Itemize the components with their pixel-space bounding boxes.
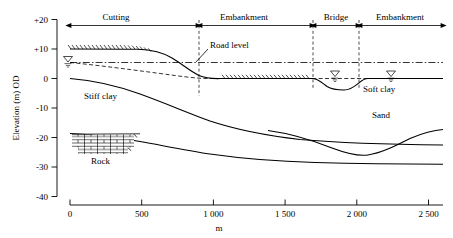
y-axis: +20 +10 0 -10 -20 -30 -40 Elevation (m) …	[11, 15, 57, 202]
cross-section-svg: +20 +10 0 -10 -20 -30 -40 Elevation (m) …	[0, 0, 453, 238]
road-level-leader	[196, 49, 208, 62]
x-tick-label-2500: 2 500	[418, 209, 439, 219]
x-axis-ticks	[70, 200, 429, 206]
y-tick-label-minus30: -30	[36, 162, 48, 172]
x-axis-unit-label: m	[215, 223, 222, 233]
x-tick-label-1000: 1 000	[203, 209, 224, 219]
water-table-embankment	[387, 71, 396, 82]
ground-hatch-cutting	[68, 45, 151, 52]
water-table-cutting	[64, 57, 73, 68]
y-tick-label-minus20: -20	[36, 133, 48, 143]
segment-label-embankment-1: Embankment	[220, 12, 268, 22]
segment-label-bridge: Bridge	[324, 12, 349, 22]
segment-labels: Cutting Embankment Bridge Embankment	[102, 12, 424, 22]
strata-label-rock: Rock	[91, 156, 110, 166]
clay-boundary-dashed-line	[70, 63, 443, 79]
road-level-label: Road level	[210, 40, 249, 50]
segment-dividers	[199, 20, 359, 96]
strata-label-stiff-clay: Stiff clay	[84, 91, 118, 101]
x-axis: 0 500 1 000 1 500 2 000 2 500 m	[68, 200, 443, 234]
y-tick-label-10: +10	[34, 44, 49, 54]
strata-label-sand: Sand	[372, 110, 391, 120]
segment-label-embankment-2: Embankment	[376, 12, 424, 22]
y-tick-label-minus10: -10	[36, 103, 48, 113]
x-tick-label-500: 500	[135, 209, 149, 219]
y-tick-label-20: +20	[34, 15, 49, 25]
geological-cross-section-figure: +20 +10 0 -10 -20 -30 -40 Elevation (m) …	[0, 0, 453, 238]
y-tick-label-minus40: -40	[36, 192, 48, 202]
segment-label-cutting: Cutting	[102, 12, 130, 22]
x-tick-label-0: 0	[68, 209, 73, 219]
y-tick-label-0: 0	[44, 74, 49, 84]
road-level-group: Road level	[70, 40, 443, 63]
rock-brick-hatch	[72, 134, 140, 154]
y-axis-title: Elevation (m) OD	[11, 75, 21, 140]
y-axis-ticks	[52, 20, 58, 197]
ground-hatch-embankment	[222, 75, 309, 79]
water-table-bridge	[331, 71, 340, 82]
x-tick-label-2000: 2 000	[347, 209, 368, 219]
strata-label-soft-clay: Soft clay	[363, 84, 396, 94]
x-tick-label-1500: 1 500	[275, 209, 296, 219]
